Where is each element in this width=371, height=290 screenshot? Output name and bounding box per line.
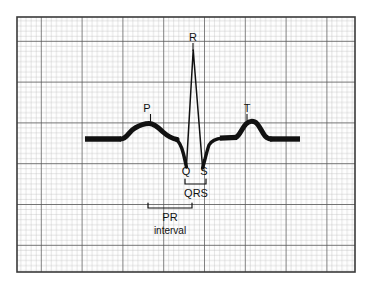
pr-interval-label-line2: interval [154, 225, 186, 236]
ecg-figure: P R Q S T QRS PR interval [0, 0, 371, 290]
r-wave-label: R [189, 31, 197, 43]
qrs-interval-label: QRS [184, 187, 208, 199]
ecg-diagram-svg: P R Q S T QRS PR interval [0, 0, 371, 290]
s-wave-label: S [200, 165, 207, 177]
pr-interval-label-line1: PR [162, 211, 177, 223]
t-wave-label: T [244, 102, 251, 114]
p-wave-label: P [143, 102, 150, 114]
q-wave-label: Q [182, 165, 191, 177]
